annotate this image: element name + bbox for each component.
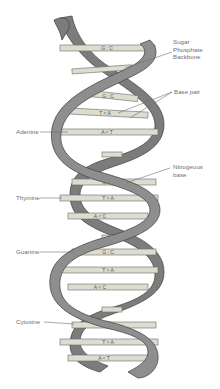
label-line: Phosphate bbox=[173, 46, 219, 54]
base-pair-rung bbox=[102, 307, 122, 312]
svg-text:A < C: A < C bbox=[94, 284, 107, 290]
svg-text:A < C: A < C bbox=[94, 213, 107, 219]
base-pair-rung: T > A bbox=[60, 267, 158, 273]
svg-text:T > A: T > A bbox=[102, 339, 114, 345]
label-line: Sugar bbox=[173, 38, 219, 46]
label-line: Base pair bbox=[174, 88, 200, 96]
label-line: base bbox=[173, 171, 219, 179]
label-thymine: Thymine bbox=[16, 194, 40, 202]
svg-text:G : C: G : C bbox=[102, 249, 114, 255]
label-guanine: Guanine bbox=[16, 248, 39, 256]
base-pair-rung: G : C bbox=[60, 45, 155, 51]
base-pair-rung: A < C bbox=[68, 284, 148, 290]
label-sugar-phosphate-backbone: Sugar Phosphate Backbone bbox=[173, 38, 219, 61]
label-base-pair: Base pair bbox=[174, 88, 200, 96]
base-pair-rung: T < A bbox=[66, 108, 148, 118]
label-line: Nitrogeous bbox=[173, 163, 219, 171]
base-pair-rung: A < T bbox=[58, 129, 158, 135]
svg-text:T > A: T > A bbox=[102, 267, 114, 273]
label-adenine: Adenine bbox=[16, 128, 39, 136]
svg-text:T > A: T > A bbox=[102, 195, 114, 201]
svg-text:A < T: A < T bbox=[101, 129, 113, 135]
svg-text:A < T: A < T bbox=[98, 355, 110, 361]
svg-text:G : C: G : C bbox=[102, 93, 114, 99]
label-line: Backbone bbox=[173, 53, 219, 61]
base-pair-rung: A < C bbox=[68, 213, 148, 219]
svg-text:G : C: G : C bbox=[101, 45, 113, 51]
label-cytosine: Cytosine bbox=[16, 318, 40, 326]
label-nitrogeous-base: Nitrogeous base bbox=[173, 163, 219, 178]
base-pair-rung: A < T bbox=[68, 355, 148, 361]
svg-text:T < A: T < A bbox=[99, 110, 111, 116]
base-pair-rung bbox=[102, 152, 122, 157]
